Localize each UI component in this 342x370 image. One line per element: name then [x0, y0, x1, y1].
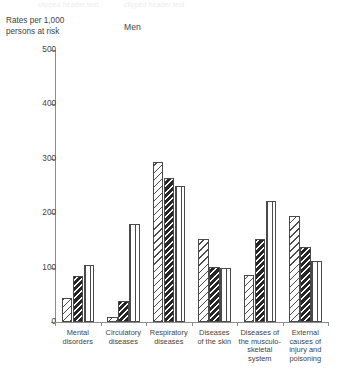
y-axis-tick-label-wrap: 100 — [12, 268, 56, 269]
bar — [164, 178, 175, 322]
bar-chart-plot-area: 0100200300400500 Mental disordersCircula… — [0, 0, 342, 370]
y-axis-tick-label-wrap: 200 — [12, 213, 56, 214]
x-axis-tick — [328, 322, 329, 326]
bar — [84, 265, 95, 322]
bar — [62, 298, 73, 322]
y-axis-tick-label: 300 — [26, 154, 56, 163]
bar — [300, 247, 311, 322]
bar — [175, 186, 186, 322]
x-axis-tick — [55, 322, 56, 326]
y-axis-tick-label: 200 — [26, 208, 56, 217]
x-axis-tick — [283, 322, 284, 326]
y-axis-tick-label: 400 — [26, 99, 56, 108]
bar — [255, 239, 266, 322]
bar — [244, 275, 255, 322]
y-axis-tick-label-wrap: 0 — [12, 322, 56, 323]
bar — [220, 268, 231, 322]
y-axis-tick-label: 100 — [26, 263, 56, 272]
x-axis-tick — [237, 322, 238, 326]
bar — [73, 276, 84, 322]
bar — [198, 239, 209, 322]
bar — [118, 301, 129, 322]
x-axis-tick — [101, 322, 102, 326]
bar — [209, 267, 220, 322]
x-axis-tick — [192, 322, 193, 326]
bar — [311, 261, 322, 322]
y-axis-tick-label-wrap: 300 — [12, 159, 56, 160]
y-axis-tick-label: 0 — [26, 317, 56, 326]
y-axis-tick-label-wrap: 500 — [12, 50, 56, 51]
y-axis-tick-label-wrap: 400 — [12, 104, 56, 105]
x-axis-tick — [146, 322, 147, 326]
bar — [289, 216, 300, 322]
y-axis-tick-label: 500 — [26, 45, 56, 54]
bar — [129, 224, 140, 322]
bar — [153, 162, 164, 322]
y-axis-line — [55, 50, 56, 323]
bar — [266, 201, 277, 322]
bar — [107, 317, 118, 322]
x-axis-category-label: External causes of injury and poisoning — [279, 329, 333, 363]
